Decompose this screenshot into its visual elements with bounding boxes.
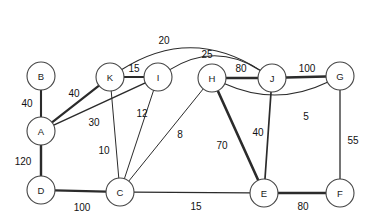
graph-node-c[interactable]: C xyxy=(106,178,134,206)
graph-node-g[interactable]: G xyxy=(326,62,354,90)
edge-weight-label: 12 xyxy=(136,108,148,119)
edge-weight-label: 40 xyxy=(68,88,80,99)
graph-node-i[interactable]: I xyxy=(144,63,172,91)
graph-edge xyxy=(111,91,119,178)
edge-weight-label: 30 xyxy=(88,117,100,128)
edges-layer xyxy=(41,48,340,193)
graph-node-h[interactable]: H xyxy=(198,64,226,92)
nodes-layer: BADKIHJGCEF xyxy=(27,62,354,207)
edge-weight-label: 10 xyxy=(98,145,110,156)
graph-diagram: BADKIHJGCEF 4012040301510128801007040551… xyxy=(0,0,378,224)
edge-weight-label: 8 xyxy=(177,129,183,140)
edge-weight-label: 80 xyxy=(297,201,309,212)
node-label: C xyxy=(117,187,124,198)
graph-node-d[interactable]: D xyxy=(27,176,55,204)
graph-canvas: BADKIHJGCEF 4012040301510128801007040551… xyxy=(0,0,378,224)
edge-weight-label: 40 xyxy=(252,127,264,138)
node-label: J xyxy=(270,73,275,84)
graph-edge xyxy=(129,89,203,181)
node-label: G xyxy=(336,71,343,82)
graph-node-k[interactable]: K xyxy=(96,63,124,91)
node-label: A xyxy=(38,126,45,137)
edge-weight-label: 20 xyxy=(158,35,170,46)
node-label: H xyxy=(209,73,216,84)
edge-weight-label: 80 xyxy=(235,63,247,74)
graph-node-j[interactable]: J xyxy=(258,64,286,92)
edge-weight-label: 15 xyxy=(190,201,202,212)
graph-edge xyxy=(55,190,106,191)
edge-weight-label: 120 xyxy=(15,156,32,167)
edge-weight-label: 100 xyxy=(299,63,316,74)
edge-weight-label: 5 xyxy=(303,111,309,122)
graph-node-b[interactable]: B xyxy=(27,62,55,90)
edge-weight-label: 55 xyxy=(347,135,359,146)
graph-node-a[interactable]: A xyxy=(27,117,55,145)
edge-weight-label: 100 xyxy=(74,202,91,213)
edge-weight-label: 25 xyxy=(201,49,213,60)
graph-edge xyxy=(265,92,271,179)
edge-weight-label: 70 xyxy=(216,140,228,151)
edge-weight-label: 15 xyxy=(128,63,140,74)
node-label: I xyxy=(157,72,160,83)
node-label: D xyxy=(38,185,45,196)
edge-weight-label: 40 xyxy=(21,98,33,109)
graph-node-e[interactable]: E xyxy=(250,179,278,207)
node-label: E xyxy=(261,188,267,199)
node-label: B xyxy=(38,71,44,82)
graph-edge xyxy=(134,192,250,193)
node-label: F xyxy=(337,188,343,199)
graph-edge xyxy=(124,90,153,178)
node-label: K xyxy=(107,72,114,83)
graph-edge xyxy=(286,76,326,77)
graph-node-f[interactable]: F xyxy=(326,179,354,207)
